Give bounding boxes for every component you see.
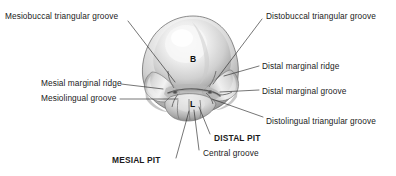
label-distal-pit: DISTAL PIT bbox=[214, 133, 261, 143]
label-mesiolingual-groove: Mesiolingual groove bbox=[41, 93, 116, 103]
cusp-marker-lingual: L bbox=[190, 99, 195, 109]
cusp-marker-buccal-letter: B bbox=[190, 54, 196, 64]
leader-distolingual-triangular-groove bbox=[212, 99, 263, 117]
label-mesiobuccal-triangular-groove: Mesiobuccal triangular groove bbox=[5, 11, 118, 21]
label-distal-marginal-ridge: Distal marginal ridge bbox=[262, 61, 339, 71]
label-distal-marginal-groove: Distal marginal groove bbox=[262, 86, 346, 96]
cusp-marker-lingual-letter: L bbox=[190, 99, 195, 109]
anatomy-figure: B L Mesiobuccal triangular groove Mesial… bbox=[0, 0, 396, 176]
label-distolingual-triangular-groove: Distolingual triangular groove bbox=[266, 116, 376, 126]
label-mesial-pit: MESIAL PIT bbox=[112, 155, 161, 165]
label-distobuccal-triangular-groove: Distobuccal triangular groove bbox=[266, 11, 376, 21]
cusp-marker-buccal: B bbox=[190, 54, 196, 64]
label-central-groove: Central groove bbox=[203, 148, 259, 158]
label-mesial-marginal-ridge: Mesial marginal ridge bbox=[41, 78, 122, 88]
